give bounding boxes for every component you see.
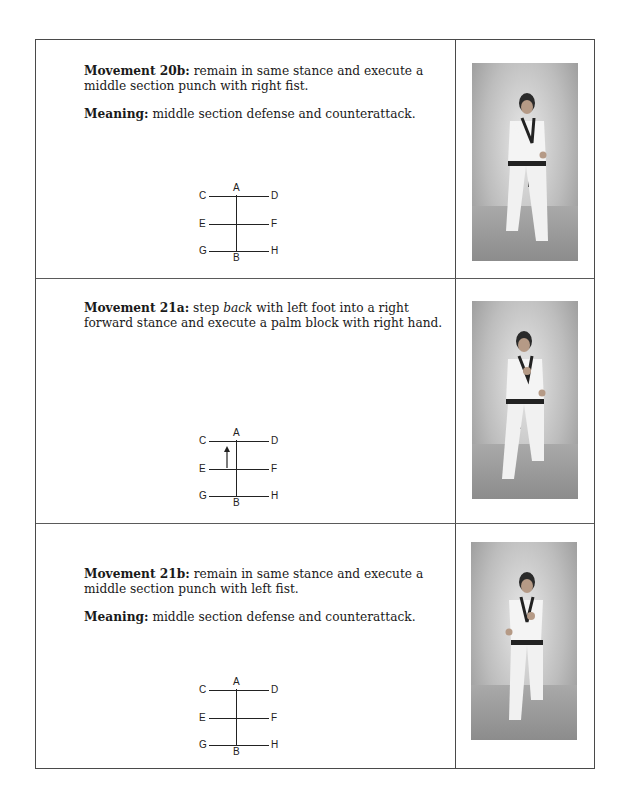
diagram-line	[209, 196, 269, 197]
diagram-line	[209, 745, 269, 746]
meaning-label: Meaning:	[84, 610, 149, 624]
floor-pattern-diagram: A C D E F G H B	[199, 677, 279, 753]
diagram-label-a: A	[233, 183, 240, 193]
diagram-label-h: H	[271, 246, 278, 256]
diagram-label-f: F	[271, 219, 277, 229]
diagram-label-a: A	[233, 428, 240, 438]
diagram-line	[209, 224, 269, 225]
arrow-up-icon	[223, 446, 231, 468]
diagram-label-g: G	[199, 740, 207, 750]
movement-description-emphasis: back	[223, 301, 252, 315]
diagram-line	[236, 195, 237, 252]
diagram-label-g: G	[199, 491, 207, 501]
diagram-label-d: D	[271, 436, 278, 446]
diagram-line	[209, 251, 269, 252]
movement-photo	[472, 63, 578, 261]
movement-text: Movement 21a: step back with left foot i…	[84, 301, 444, 344]
diagram-label-g: G	[199, 246, 207, 256]
diagram-label-d: D	[271, 685, 278, 695]
diagram-label-b: B	[233, 498, 240, 508]
diagram-label-e: E	[199, 219, 206, 229]
meaning-text: middle section defense and counterattack…	[152, 610, 415, 624]
diagram-line	[209, 690, 269, 691]
practitioner-figure	[472, 301, 578, 499]
diagram-label-f: F	[271, 464, 277, 474]
movement-text: Movement 20b: remain in same stance and …	[84, 64, 444, 135]
diagram-line	[236, 440, 237, 497]
diagram-label-e: E	[199, 713, 206, 723]
diagram-label-f: F	[271, 713, 277, 723]
diagram-label-b: B	[233, 747, 240, 757]
floor-pattern-diagram: A C D E F G H B	[199, 183, 279, 259]
diagram-label-e: E	[199, 464, 206, 474]
movement-table: Movement 20b: remain in same stance and …	[35, 39, 595, 769]
movement-photo	[471, 542, 577, 740]
movement-text: Movement 21b: remain in same stance and …	[84, 567, 444, 638]
diagram-line	[209, 469, 269, 470]
diagram-label-h: H	[271, 491, 278, 501]
practitioner-figure	[471, 542, 577, 740]
practitioner-figure	[472, 63, 578, 261]
movement-label: Movement 21b:	[84, 567, 190, 581]
movement-label: Movement 20b:	[84, 64, 190, 78]
diagram-line	[209, 441, 269, 442]
movement-row-20b: Movement 20b: remain in same stance and …	[36, 40, 594, 279]
diagram-label-b: B	[233, 253, 240, 263]
diagram-line	[209, 718, 269, 719]
diagram-label-h: H	[271, 740, 278, 750]
floor-pattern-diagram: A C D E F G H B	[199, 428, 279, 504]
movement-description-pre: step	[193, 301, 223, 315]
movement-photo	[472, 301, 578, 499]
meaning-label: Meaning:	[84, 107, 149, 121]
diagram-label-c: C	[199, 436, 206, 446]
movement-label: Movement 21a:	[84, 301, 189, 315]
diagram-label-c: C	[199, 191, 206, 201]
movement-row-21b: Movement 21b: remain in same stance and …	[36, 524, 594, 768]
diagram-line	[236, 689, 237, 746]
diagram-line	[209, 496, 269, 497]
diagram-label-d: D	[271, 191, 278, 201]
diagram-label-a: A	[233, 677, 240, 687]
movement-row-21a: Movement 21a: step back with left foot i…	[36, 279, 594, 524]
diagram-label-c: C	[199, 685, 206, 695]
meaning-text: middle section defense and counterattack…	[152, 107, 415, 121]
